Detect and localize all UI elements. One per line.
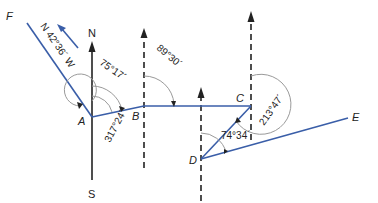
angle-arcs <box>64 74 291 152</box>
bearing-af-label: N 42°36´ W <box>38 21 77 70</box>
point-label-c: C <box>236 92 244 104</box>
north-arrow-icon <box>89 41 96 52</box>
point-label-b: B <box>132 110 139 122</box>
arc-inner-a <box>92 96 112 112</box>
direction-arrow-icon <box>57 24 66 32</box>
arc-89-30 <box>144 76 174 104</box>
point-label-e: E <box>352 111 360 123</box>
traverse-diagram: F A B C D E N S N 42°36´ W 75°17´ 317°24… <box>0 0 378 203</box>
angle-c-label: 213°47´ <box>257 92 286 127</box>
meridian-d <box>198 87 205 202</box>
meridian-b <box>141 28 148 172</box>
bearing-ab-label: 75°17´ <box>98 57 129 83</box>
point-label-f: F <box>6 10 14 22</box>
diagram-svg: F A B C D E N S N 42°36´ W 75°17´ 317°24… <box>0 0 378 203</box>
north-south-meridian <box>89 41 96 180</box>
north-label: N <box>88 27 96 39</box>
north-arrow-icon <box>141 28 148 38</box>
south-label: S <box>88 188 95 200</box>
meridian-c <box>248 11 255 142</box>
point-label-d: D <box>189 154 197 166</box>
point-label-a: A <box>77 115 85 127</box>
angle-a-reflex-label: 317°24´ <box>102 108 128 144</box>
arc-arrowheads <box>77 101 241 154</box>
north-arrow-icon <box>248 11 255 22</box>
bearing-bc-label: 89°30´ <box>155 42 185 69</box>
angle-d-label: 74°34´ <box>221 130 251 141</box>
north-arrow-icon <box>198 87 205 98</box>
